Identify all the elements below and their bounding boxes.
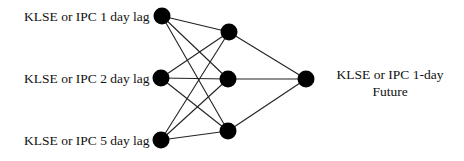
edge-in3-h2 [161,79,228,140]
hidden-node-h2 [220,71,237,88]
network-graph: KLSE or IPC 1 day lag KLSE or IPC 2 day … [0,0,464,161]
edge-in1-h2 [162,16,228,79]
hidden-node-h3 [220,123,237,140]
edge-in1-h3 [162,16,228,131]
output-label-line-1: KLSE or IPC 1-day [337,67,444,82]
input-label-5-day-lag: KLSE or IPC 5 day lag [24,133,150,148]
edge-in2-h1 [161,32,229,78]
edge-in3-h3 [161,131,228,140]
edge-in2-h2 [161,78,228,79]
input-label-1-day-lag: KLSE or IPC 1 day lag [24,9,150,24]
input-label-2-day-lag: KLSE or IPC 2 day lag [24,71,150,86]
output-label-line-2: Future [372,84,407,99]
edge-h1-out1 [229,32,306,79]
edge-in1-h1 [162,16,229,32]
input-node-in1 [154,8,171,25]
output-node-out1 [298,71,315,88]
input-node-in2 [153,70,170,87]
edge-h3-out1 [228,79,306,131]
neural-network-diagram: KLSE or IPC 1 day lag KLSE or IPC 2 day … [0,0,464,161]
hidden-node-h1 [221,24,238,41]
input-node-in3 [153,132,170,149]
